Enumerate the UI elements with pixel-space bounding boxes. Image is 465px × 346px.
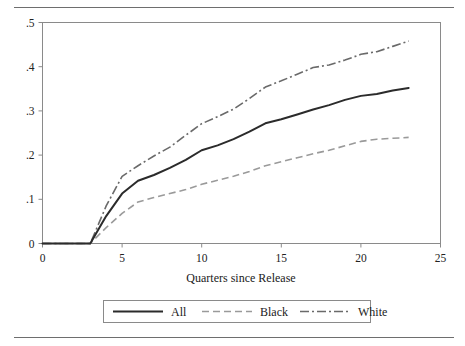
x-axis-ticks bbox=[43, 244, 441, 248]
x-tick-label: 25 bbox=[435, 252, 447, 264]
x-tick-label: 0 bbox=[40, 252, 46, 264]
line-chart: 0.1.2.3.4.5 0510152025 Quarters since Re… bbox=[0, 0, 465, 346]
series-line-all bbox=[43, 88, 409, 244]
legend-label-all: All bbox=[171, 305, 187, 319]
y-tick-label: .2 bbox=[26, 149, 35, 161]
y-tick-label: .5 bbox=[26, 17, 35, 29]
y-axis-tick-labels: 0.1.2.3.4.5 bbox=[26, 17, 35, 250]
chart-legend: All Black White bbox=[104, 301, 388, 323]
x-axis-tick-labels: 0510152025 bbox=[40, 252, 447, 264]
y-tick-label: .3 bbox=[26, 105, 35, 117]
y-tick-label: .1 bbox=[26, 193, 35, 205]
y-tick-label: .4 bbox=[26, 61, 35, 73]
plot-frame bbox=[43, 23, 441, 244]
x-tick-label: 10 bbox=[196, 252, 208, 264]
y-axis-ticks bbox=[39, 23, 43, 244]
legend-label-white: White bbox=[358, 305, 387, 319]
x-tick-label: 15 bbox=[276, 252, 288, 264]
y-tick-label: 0 bbox=[29, 238, 35, 250]
x-axis-title: Quarters since Release bbox=[186, 271, 295, 285]
series-line-black bbox=[43, 137, 409, 243]
x-tick-label: 5 bbox=[119, 252, 125, 264]
legend-label-black: Black bbox=[260, 305, 288, 319]
x-tick-label: 20 bbox=[355, 252, 367, 264]
chart-figure: 0.1.2.3.4.5 0510152025 Quarters since Re… bbox=[0, 0, 465, 346]
